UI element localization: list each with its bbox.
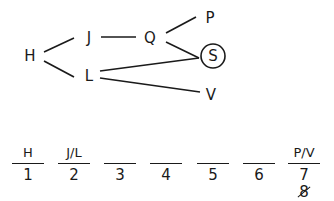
slot-line <box>58 163 90 164</box>
node-h: H <box>24 49 35 64</box>
slot-number: 7 <box>288 166 320 184</box>
slot-label <box>104 145 136 161</box>
slot-line <box>150 163 182 164</box>
slot-4: 4 <box>150 145 182 184</box>
slot-3: 3 <box>104 145 136 184</box>
slot-line <box>104 163 136 164</box>
node-v: V <box>206 88 216 103</box>
slot-label <box>197 145 229 161</box>
crossed-out-number: 8 <box>288 184 320 200</box>
slot-5: 5 <box>197 145 229 184</box>
slot-label: P/V <box>288 145 320 161</box>
slot-number: 3 <box>104 166 136 184</box>
slot-number: 5 <box>197 166 229 184</box>
slot-number: 2 <box>58 166 90 184</box>
slot-number: 6 <box>243 166 275 184</box>
slot-label <box>150 145 182 161</box>
slot-6: 6 <box>243 145 275 184</box>
slot-label <box>243 145 275 161</box>
slot-line <box>288 163 320 164</box>
slot-7: P/V 7 8 <box>288 145 320 200</box>
slot-label: J/L <box>58 145 90 161</box>
slot-1: H 1 <box>12 145 44 184</box>
node-j: J <box>87 31 91 46</box>
slot-label: H <box>12 145 44 161</box>
edge-h-l <box>44 61 74 77</box>
slot-line <box>197 163 229 164</box>
edge-q-s <box>166 42 199 58</box>
slot-number: 1 <box>12 166 44 184</box>
edge-l-s <box>100 58 199 71</box>
edge-h-j <box>44 38 74 52</box>
edge-l-v <box>100 78 200 92</box>
slot-line <box>12 163 44 164</box>
slot-2: J/L 2 <box>58 145 90 184</box>
node-l: L <box>85 69 93 84</box>
node-q: Q <box>144 31 156 46</box>
node-s: S <box>208 49 218 64</box>
slot-line <box>243 163 275 164</box>
node-p: P <box>205 11 214 26</box>
edge-q-p <box>166 17 196 33</box>
slot-number: 4 <box>150 166 182 184</box>
